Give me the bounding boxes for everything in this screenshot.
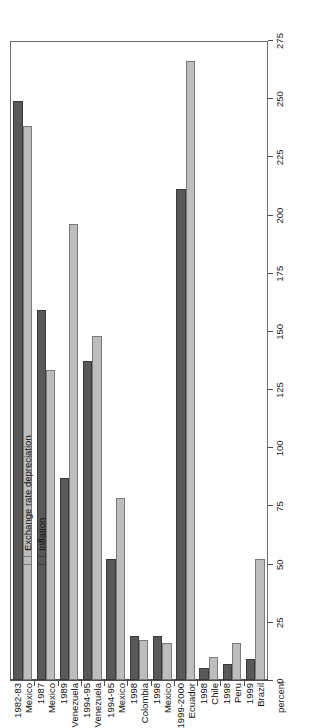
legend-label-exchange-rate-depreciation: Exchange rate depreciation	[22, 435, 33, 551]
axis-tick	[268, 564, 273, 565]
category-label: 1994-95Mexico	[105, 683, 127, 718]
axis-tick-label: 150	[275, 324, 285, 340]
category-label: 1998Colombia	[128, 683, 150, 723]
axis-tick-label: 225	[275, 149, 285, 165]
axis-tick-label: 50	[275, 559, 285, 570]
category-country: Venezuela	[92, 683, 103, 727]
category-label: 1998Peru	[221, 683, 243, 704]
axis-tick	[268, 215, 273, 216]
category-period: 1999-2000	[175, 683, 186, 728]
category-period: 1999	[244, 683, 255, 707]
bar-group	[34, 42, 57, 680]
category-country: Mexico	[162, 683, 173, 713]
category-country: Peru	[232, 683, 243, 704]
bar-inflation	[153, 636, 162, 680]
bar-inflation	[246, 659, 255, 680]
bar-exchange-rate-depreciation	[116, 498, 125, 680]
bar-exchange-rate-depreciation	[232, 643, 241, 680]
axis-tick	[268, 98, 273, 99]
category-country: Colombia	[139, 683, 150, 723]
category-country: Ecuador	[186, 683, 197, 728]
axis-tick-label: 175	[275, 266, 285, 282]
legend-item-exchange-rate-depreciation: Exchange rate depreciation	[22, 435, 33, 565]
bar-inflation	[199, 668, 208, 680]
category-label: 1998Mexico	[151, 683, 173, 713]
category-country: Mexico	[46, 683, 57, 713]
bar-exchange-rate-depreciation	[162, 643, 171, 680]
axis-tick	[268, 680, 273, 681]
category-tick	[151, 680, 152, 686]
category-period: 1987	[35, 683, 46, 713]
category-country: Mexico	[23, 683, 34, 718]
axis-tick	[268, 273, 273, 274]
category-tick	[127, 680, 128, 686]
category-label: 1982-83Mexico	[12, 683, 34, 718]
bar-group	[58, 42, 81, 680]
bar-exchange-rate-depreciation	[186, 61, 195, 680]
axis-tick-label: 100	[275, 440, 285, 456]
bar-inflation	[60, 478, 69, 680]
bar-exchange-rate-depreciation	[255, 559, 264, 680]
category-period: 1982-83	[12, 683, 23, 718]
bar-inflation	[176, 189, 185, 680]
bar-exchange-rate-depreciation	[92, 336, 101, 680]
value-axis: 0255075100125150175200225250275	[268, 41, 302, 681]
bar-group	[244, 42, 267, 680]
category-tick	[58, 680, 59, 686]
category-label: 1999-2000Ecuador	[175, 683, 197, 728]
axis-tick-label: 25	[275, 618, 285, 629]
axis-tick	[268, 331, 273, 332]
category-period: 1994-95	[81, 683, 92, 727]
category-tick	[197, 680, 198, 686]
category-country: Mexico	[116, 683, 127, 718]
bar-group	[197, 42, 220, 680]
bar-inflation	[130, 636, 139, 680]
bar-exchange-rate-depreciation	[69, 224, 78, 680]
category-period: 1989	[58, 683, 69, 727]
legend-swatch-icon-exchange-rate-depreciation	[23, 556, 32, 565]
chart-legend: Exchange rate depreciation Inflation	[22, 435, 50, 565]
category-tick	[81, 680, 82, 686]
bar-inflation	[223, 664, 232, 680]
axis-tick	[268, 447, 273, 448]
category-period: 1998	[151, 683, 162, 713]
bar-group	[127, 42, 150, 680]
category-label: 1999Brazil	[244, 683, 266, 707]
bar-group	[220, 42, 243, 680]
axis-tick	[268, 389, 273, 390]
legend-item-inflation: Inflation	[36, 435, 47, 565]
axis-title: percent	[275, 681, 286, 713]
legend-swatch-icon-inflation	[37, 556, 46, 565]
bar-exchange-rate-depreciation	[139, 640, 148, 680]
category-tick	[104, 680, 105, 686]
bar-group	[174, 42, 197, 680]
category-label: 1989Venezuela	[58, 683, 80, 727]
category-tick	[34, 680, 35, 686]
bar-inflation	[13, 101, 22, 680]
axis-tick-label: 75	[275, 501, 285, 512]
bar-inflation	[106, 559, 115, 680]
category-period: 1998	[221, 683, 232, 704]
category-country: Brazil	[255, 683, 266, 707]
axis-tick-label: 275	[275, 33, 285, 49]
category-period: 1994-95	[105, 683, 116, 718]
category-label: 1987Mexico	[35, 683, 57, 713]
category-tick	[220, 680, 221, 686]
bar-inflation	[83, 361, 92, 680]
category-country: Venezuela	[69, 683, 80, 727]
bar-exchange-rate-depreciation	[23, 126, 32, 680]
bar-group	[11, 42, 34, 680]
axis-tick-label: 125	[275, 382, 285, 398]
axis-tick-label: 250	[275, 91, 285, 107]
bar-groups	[11, 42, 267, 680]
axis-tick-label: 200	[275, 208, 285, 224]
category-period: 1998	[128, 683, 139, 723]
axis-tick	[268, 40, 273, 41]
axis-tick	[268, 622, 273, 623]
axis-tick	[268, 156, 273, 157]
bar-exchange-rate-depreciation	[209, 657, 218, 680]
bar-group	[104, 42, 127, 680]
category-country: Chile	[209, 683, 220, 705]
axis-tick	[268, 505, 273, 506]
